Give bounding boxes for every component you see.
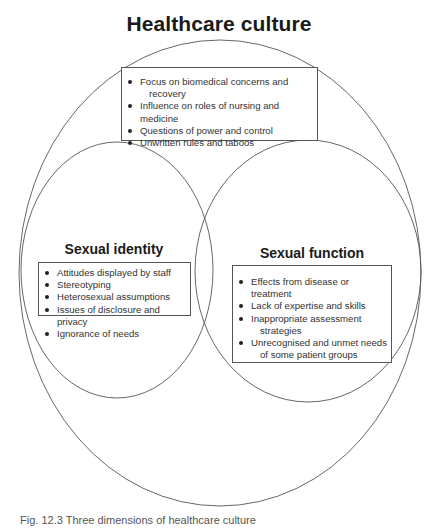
sexual-identity-list: Attitudes displayed by staff Stereotypin…: [39, 267, 190, 340]
bullet-icon: [45, 271, 49, 275]
bullet-icon: [239, 341, 243, 345]
list-item: Focus on biomedical concerns and recover…: [122, 76, 317, 100]
bullet-icon: [128, 141, 132, 145]
list-item: Unrecognised and unmet needs of some pat…: [233, 337, 391, 361]
list-item: Inappropriate assessment strategies: [233, 313, 391, 337]
list-item: Issues of disclosure and privacy: [39, 304, 190, 328]
list-item: Stereotyping: [39, 279, 190, 291]
healthcare-culture-box: Focus on biomedical concerns and recover…: [121, 67, 318, 141]
bullet-icon: [128, 104, 132, 108]
list-item: Ignorance of needs: [39, 328, 190, 340]
sexual-function-list: Effects from disease or treatment Lack o…: [233, 276, 391, 361]
list-item: Attitudes displayed by staff: [39, 267, 190, 279]
sexual-function-box: Effects from disease or treatment Lack o…: [232, 265, 392, 363]
list-item: Lack of expertise and skills: [233, 300, 391, 312]
list-item: Unwritten rules and taboos: [122, 137, 317, 149]
sexual-identity-box: Attitudes displayed by staff Stereotypin…: [38, 262, 191, 316]
bullet-icon: [128, 80, 132, 84]
figure-caption: Fig. 12.3 Three dimensions of healthcare…: [20, 514, 256, 526]
sexual-identity-heading: Sexual identity: [38, 241, 190, 257]
bullet-icon: [45, 295, 49, 299]
list-item: Influence on roles of nursing and medici…: [122, 100, 317, 124]
bullet-icon: [45, 308, 49, 312]
bullet-icon: [45, 332, 49, 336]
bullet-icon: [239, 304, 243, 308]
sexual-function-heading: Sexual function: [232, 245, 392, 261]
bullet-icon: [45, 283, 49, 287]
list-item: Heterosexual assumptions: [39, 291, 190, 303]
list-item: Questions of power and control: [122, 125, 317, 137]
bullet-icon: [239, 280, 243, 284]
bullet-icon: [239, 317, 243, 321]
list-item: Effects from disease or treatment: [233, 276, 391, 300]
healthcare-culture-list: Focus on biomedical concerns and recover…: [122, 76, 317, 149]
bullet-icon: [128, 129, 132, 133]
